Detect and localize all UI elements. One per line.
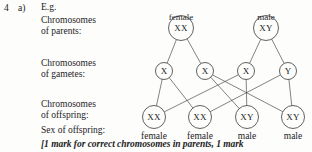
gamete-offspring-link (211, 77, 240, 108)
answer-page: 4 a) E.g. Chromosomes of parents: Chromo… (0, 0, 312, 152)
label-parents-line2: of parents: (41, 26, 96, 37)
parent-genotype-text: XY (259, 24, 272, 33)
offspring-genotype-text: XX (147, 113, 160, 122)
label-gametes-line1: Chromosomes (41, 58, 96, 68)
parent-sex-caption: male (257, 13, 275, 22)
parent-gamete-link (187, 39, 201, 64)
offspring-sex-caption: male (284, 131, 302, 142)
gamete-offspring-link (246, 79, 247, 105)
parent-gamete-link (167, 40, 176, 63)
parent-gamete-link (272, 39, 284, 63)
parent-genotype-text: XX (174, 24, 187, 33)
label-sex-of-offspring: Sex of offspring: (41, 125, 105, 136)
gamete-allele-text: X (202, 67, 209, 76)
label-offspring-line2: of offspring: (41, 110, 96, 121)
question-part-label: a) (18, 3, 25, 14)
gamete-offspring-link (156, 79, 162, 105)
offspring-genotype-text: XY (286, 113, 299, 122)
marking-note: [1 mark for correct chromosomes in paren… (41, 138, 244, 150)
gamete-offspring-link (210, 75, 280, 112)
gamete-allele-text: X (243, 67, 250, 76)
label-offspring-line1: Chromosomes (41, 99, 96, 109)
offspring-genotype-text: XY (240, 113, 253, 122)
gamete-offspring-link (164, 75, 238, 112)
label-chromosomes-of-gametes: Chromosomes of gametes: (41, 58, 96, 79)
diagram-cross-lines (156, 39, 291, 112)
example-label: E.g. (41, 2, 56, 13)
gamete-offspring-link (169, 78, 193, 108)
gamete-offspring-link (213, 75, 283, 112)
offspring-genotype-text: XX (193, 113, 206, 122)
parent-gamete-link (250, 39, 261, 63)
question-number: 4 (4, 3, 9, 14)
label-chromosomes-of-parents: Chromosomes of parents: (41, 15, 96, 36)
gamete-allele-text: X (161, 67, 168, 76)
label-chromosomes-of-offspring: Chromosomes of offspring: (41, 99, 96, 120)
label-parents-line1: Chromosomes (41, 15, 96, 25)
gamete-offspring-link (289, 79, 292, 105)
gamete-allele-text: Y (285, 67, 292, 76)
label-gametes-line2: of gametes: (41, 69, 96, 80)
parent-sex-caption: female (169, 13, 193, 22)
